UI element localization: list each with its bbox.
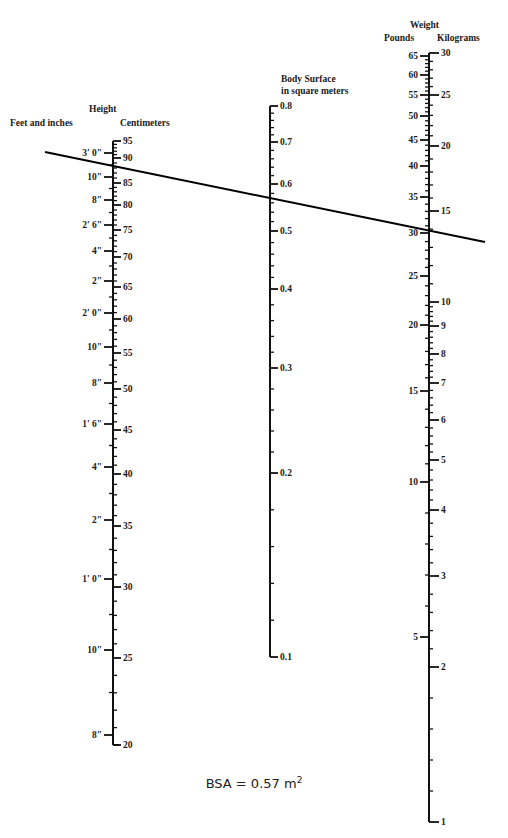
height-inch-label: 1' 0" bbox=[82, 574, 102, 584]
height-cm-label: 95 bbox=[123, 136, 133, 146]
height-inch-label: 2" bbox=[92, 276, 102, 286]
weight-kg-label: 4 bbox=[441, 505, 446, 515]
reading-line bbox=[45, 152, 485, 242]
height-cm-label: 25 bbox=[123, 653, 133, 663]
weight-lb-label: 20 bbox=[409, 320, 419, 330]
weight-lb-label: 65 bbox=[409, 51, 419, 61]
height-cm-label: 60 bbox=[123, 314, 133, 324]
bsa-label: 0.8 bbox=[280, 101, 292, 111]
height-inch-label: 4" bbox=[92, 462, 102, 472]
weight-lb-label: 45 bbox=[409, 135, 419, 145]
height-cm-label: 90 bbox=[123, 153, 133, 163]
bsa-scale-axis bbox=[270, 106, 278, 657]
bsa-label: 0.6 bbox=[280, 179, 292, 189]
height-inch-label: 2" bbox=[92, 515, 102, 525]
height-inch-label: 10" bbox=[87, 342, 102, 352]
height-cm-label: 30 bbox=[123, 582, 133, 592]
weight-kg-label: 8 bbox=[441, 349, 446, 359]
bsa-label: 0.4 bbox=[280, 284, 292, 294]
height-right-unit: Centimeters bbox=[120, 118, 170, 128]
height-inch-label: 4" bbox=[92, 246, 102, 256]
weight-kg-label: 30 bbox=[441, 48, 451, 58]
weight-kg-label: 20 bbox=[441, 141, 451, 151]
height-cm-label: 50 bbox=[123, 384, 133, 394]
weight-lb-label: 30 bbox=[409, 228, 419, 238]
bsa-label: 0.2 bbox=[280, 468, 292, 478]
weight-kg-label: 3 bbox=[441, 571, 446, 581]
bsa-result-text: BSA = 0.57 m bbox=[206, 776, 297, 791]
weight-right-unit: Kilograms bbox=[437, 33, 480, 43]
height-left-unit: Feet and inches bbox=[10, 118, 73, 128]
weight-kg-label: 6 bbox=[441, 415, 446, 425]
weight-lb-label: 35 bbox=[409, 192, 419, 202]
height-inch-label: 8" bbox=[92, 195, 102, 205]
height-inch-label: 8" bbox=[92, 378, 102, 388]
height-cm-label: 35 bbox=[123, 521, 133, 531]
bsa-label: 0.7 bbox=[280, 137, 292, 147]
weight-title: Weight bbox=[410, 20, 439, 30]
height-cm-label: 80 bbox=[123, 200, 133, 210]
height-cm-label: 70 bbox=[123, 252, 133, 262]
height-cm-label: 40 bbox=[123, 469, 133, 479]
height-inch-label: 3' 0" bbox=[82, 148, 102, 158]
height-title: Height bbox=[89, 104, 116, 114]
height-inch-label: 2' 0" bbox=[82, 308, 102, 318]
weight-kg-label: 9 bbox=[441, 321, 446, 331]
height-inch-label: 1' 6" bbox=[82, 419, 102, 429]
bsa-title-line1: Body Surface bbox=[281, 74, 336, 84]
weight-kg-label: 25 bbox=[441, 90, 451, 100]
height-cm-label: 65 bbox=[123, 282, 133, 292]
weight-lb-label: 10 bbox=[409, 477, 419, 487]
weight-kg-label: 10 bbox=[441, 297, 451, 307]
weight-lb-label: 60 bbox=[409, 70, 419, 80]
bsa-label: 0.5 bbox=[280, 226, 292, 236]
weight-kg-label: 15 bbox=[441, 206, 451, 216]
height-cm-label: 20 bbox=[123, 740, 133, 750]
height-cm-label: 75 bbox=[123, 225, 133, 235]
weight-lb-label: 55 bbox=[409, 90, 419, 100]
weight-lb-label: 5 bbox=[413, 632, 418, 642]
bsa-title-line2: in square meters bbox=[281, 86, 348, 96]
weight-kg-label: 7 bbox=[441, 378, 446, 388]
bsa-result-superscript: 2 bbox=[297, 775, 303, 785]
bsa-label: 0.3 bbox=[280, 363, 292, 373]
weight-lb-label: 15 bbox=[409, 386, 419, 396]
height-inch-label: 10" bbox=[87, 172, 102, 182]
weight-scale-axis bbox=[420, 53, 439, 822]
weight-lb-label: 25 bbox=[409, 271, 419, 281]
weight-kg-label: 2 bbox=[441, 662, 446, 672]
weight-lb-label: 40 bbox=[409, 161, 419, 171]
height-cm-label: 55 bbox=[123, 348, 133, 358]
weight-kg-label: 5 bbox=[441, 455, 446, 465]
bsa-nomogram bbox=[0, 0, 508, 838]
height-inch-label: 2' 6" bbox=[82, 220, 102, 230]
height-cm-label: 85 bbox=[123, 178, 133, 188]
height-inch-label: 10" bbox=[87, 645, 102, 655]
bsa-result: BSA = 0.57 m2 bbox=[0, 775, 508, 791]
weight-left-unit: Pounds bbox=[384, 33, 414, 43]
weight-kg-label: 1 bbox=[441, 817, 446, 827]
weight-lb-label: 50 bbox=[409, 111, 419, 121]
bsa-label: 0.1 bbox=[280, 652, 292, 662]
height-inch-label: 8" bbox=[92, 730, 102, 740]
height-scale-axis bbox=[104, 141, 121, 745]
height-cm-label: 45 bbox=[123, 425, 133, 435]
